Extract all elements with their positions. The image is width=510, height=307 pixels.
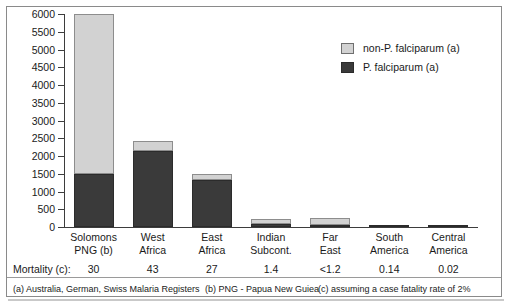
x-axis-category-label-line: Indian	[241, 231, 300, 244]
y-axis-tick-label: 5000	[32, 44, 55, 55]
mortality-value: 1.4	[241, 264, 300, 275]
footnote-a: (a) Australia, German, Swiss Malaria Reg…	[13, 285, 200, 294]
figure-shadow	[8, 299, 504, 301]
y-axis-tick-label: 4500	[32, 62, 55, 73]
x-axis-category-label: SouthAmerica	[360, 231, 419, 256]
malaria-cases-stacked-bar-chart-figure: 0500100015002000250030003500400045005000…	[0, 0, 510, 307]
mortality-value: 27	[182, 264, 241, 275]
legend-item-non-p-falciparum: non-P. falciparum (a)	[341, 39, 460, 58]
bar-segment-non-p-falciparum	[192, 174, 232, 180]
x-axis-category-label-line: PNG (b)	[64, 244, 123, 257]
footnote-divider	[7, 277, 501, 278]
x-axis-category-label: IndianSubcont.	[241, 231, 300, 256]
footnote-c: (c) assuming a case fatality rate of 2%	[318, 285, 471, 294]
mortality-value: 0.02	[419, 264, 478, 275]
legend-item-p-falciparum: P. falciparum (a)	[341, 58, 460, 77]
x-axis-category-label-line: America	[360, 244, 419, 257]
mortality-value: 43	[123, 264, 182, 275]
mortality-value: 30	[64, 264, 123, 275]
x-axis-category-label: FarEast	[301, 231, 360, 256]
y-axis-tick-label: 3500	[32, 98, 55, 109]
x-axis-category-label-line: East	[301, 244, 360, 257]
x-axis-category-label-line: Africa	[182, 244, 241, 257]
bar-group	[369, 226, 409, 227]
footnote-b: (b) PNG - Papua New Guiea	[205, 285, 319, 294]
bar-segment-non-p-falciparum	[251, 219, 291, 224]
x-axis-category-label: WestAfrica	[123, 231, 182, 256]
bar-group	[192, 174, 232, 227]
bar-segment-non-p-falciparum	[310, 218, 350, 225]
bar-group	[133, 141, 173, 227]
mortality-value: 0.14	[360, 264, 419, 275]
bar-segment-p-falciparum	[133, 151, 173, 227]
bar-group	[251, 219, 291, 227]
y-axis-tick-label: 2000	[32, 151, 55, 162]
bar-segment-non-p-falciparum	[74, 14, 114, 174]
bar-segment-non-p-falciparum	[133, 141, 173, 151]
y-axis-tick-label: 4000	[32, 80, 55, 91]
y-axis-tick-label: 3000	[32, 115, 55, 126]
x-axis-category-label-line: South	[360, 231, 419, 244]
y-axis-tick-label: 500	[37, 204, 55, 215]
x-axis-category-label-line: America	[419, 244, 478, 257]
x-axis-category-label: EastAfrica	[182, 231, 241, 256]
x-axis-category-label: SolomonsPNG (b)	[64, 231, 123, 256]
chart-legend: non-P. falciparum (a) P. falciparum (a)	[341, 39, 460, 77]
bar-segment-p-falciparum	[74, 174, 114, 227]
x-axis-category-label-line: West	[123, 231, 182, 244]
legend-label-non-p-falciparum: non-P. falciparum (a)	[363, 43, 460, 54]
y-axis-tick-label: 6000	[32, 9, 55, 20]
bar-segment-p-falciparum	[369, 225, 409, 227]
legend-swatch-icon-p-falciparum	[341, 62, 354, 73]
bar-segment-p-falciparum	[251, 224, 291, 227]
y-axis-tick-label: 0	[49, 222, 55, 233]
bar-group	[74, 14, 114, 227]
y-axis-tick-label: 1500	[32, 169, 55, 180]
y-axis-tick-label: 2500	[32, 133, 55, 144]
x-axis-category-label-line: Subcont.	[241, 244, 300, 257]
x-axis-category-label-line: Africa	[123, 244, 182, 257]
bar-segment-p-falciparum	[192, 180, 232, 227]
x-axis-category-label: CentralAmerica	[419, 231, 478, 256]
bar-group	[428, 226, 468, 227]
x-axis-category-label-line: Far	[301, 231, 360, 244]
legend-swatch-icon-non-p-falciparum	[341, 43, 354, 54]
mortality-row-label: Mortality (c):	[13, 264, 71, 275]
y-axis-tick-label: 5500	[32, 27, 55, 38]
y-axis-tick-label: 1000	[32, 186, 55, 197]
x-axis-category-label-line: East	[182, 231, 241, 244]
bar-group	[310, 218, 350, 227]
bar-segment-p-falciparum	[310, 225, 350, 227]
x-axis-category-label-line: Central	[419, 231, 478, 244]
bar-segment-p-falciparum	[428, 225, 468, 227]
legend-label-p-falciparum: P. falciparum (a)	[363, 62, 439, 73]
x-axis-category-label-line: Solomons	[64, 231, 123, 244]
mortality-value: <1.2	[301, 264, 360, 275]
